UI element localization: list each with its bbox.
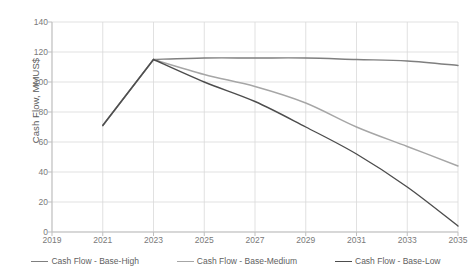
x-tick-label: 2035 (438, 236, 472, 245)
legend-color-swatch (335, 261, 352, 262)
legend-color-swatch (177, 261, 194, 262)
legend-color-swatch (31, 261, 48, 262)
x-tick-label: 2019 (32, 236, 72, 245)
chart-legend: Cash Flow - Base-HighCash Flow - Base-Me… (0, 252, 472, 270)
legend-item[interactable]: Cash Flow - Base-High (31, 257, 138, 266)
x-tick-label: 2027 (235, 236, 275, 245)
plot-area (0, 0, 472, 274)
legend-item[interactable]: Cash Flow - Base-Low (335, 257, 441, 266)
x-tick-label: 2033 (387, 236, 427, 245)
x-tick-label: 2023 (134, 236, 174, 245)
x-tick-label: 2029 (286, 236, 326, 245)
series-line (103, 60, 154, 126)
chart-container: Cash Flow, MMUS$ 020406080100120140 Cash… (0, 0, 472, 274)
legend-item[interactable]: Cash Flow - Base-Medium (177, 257, 297, 266)
legend-label: Cash Flow - Base-High (51, 257, 138, 266)
legend-label: Cash Flow - Base-Low (355, 257, 441, 266)
x-tick-label: 2031 (337, 236, 377, 245)
x-tick-label: 2025 (184, 236, 224, 245)
legend-label: Cash Flow - Base-Medium (197, 257, 297, 266)
x-tick-label: 2021 (83, 236, 123, 245)
